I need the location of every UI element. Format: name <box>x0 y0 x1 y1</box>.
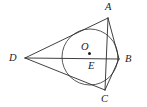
point-label-A: A <box>105 2 111 13</box>
point-label-B: B <box>125 54 131 65</box>
segment-DA <box>25 18 108 58</box>
point-label-E: E <box>88 61 94 72</box>
segment-AB <box>108 18 119 59</box>
point-label-C: C <box>101 94 108 105</box>
segment-DB <box>25 58 119 59</box>
point-label-O: O <box>81 42 89 53</box>
geometry-figure: A B C D E O <box>0 0 147 107</box>
point-label-D: D <box>9 53 17 64</box>
segment-BC <box>105 59 119 90</box>
